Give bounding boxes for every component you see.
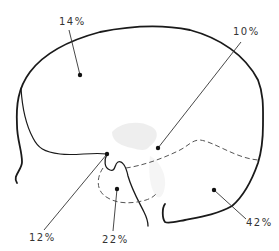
leader-12	[44, 152, 109, 230]
label-22-percent: 22%	[102, 235, 129, 245]
label-12-percent: 12%	[29, 233, 56, 243]
label-10-percent: 10%	[233, 27, 260, 37]
label-42-percent: 42%	[246, 218, 273, 228]
skull-region-diagram	[0, 0, 279, 251]
leader-10	[156, 42, 241, 150]
label-14-percent: 14%	[59, 17, 86, 27]
leader-42	[212, 188, 246, 219]
leader-22	[113, 187, 119, 231]
inner-left-contour	[21, 88, 107, 155]
leader-14	[69, 30, 82, 77]
